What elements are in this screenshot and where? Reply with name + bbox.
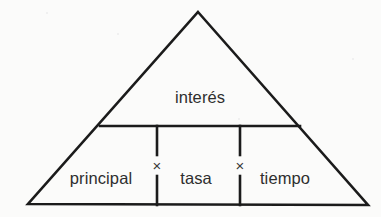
base-cell-label-tiempo: tiempo xyxy=(260,169,310,188)
multiply-icon: × xyxy=(153,158,162,173)
multiply-icon: × xyxy=(236,158,245,173)
base-cell-label-tasa: tasa xyxy=(180,169,212,188)
interest-triangle-diagram: interés principal tasa tiempo × × xyxy=(0,0,381,217)
base-cell-label-principal: principal xyxy=(70,169,132,188)
apex-cell-label: interés xyxy=(175,88,225,107)
